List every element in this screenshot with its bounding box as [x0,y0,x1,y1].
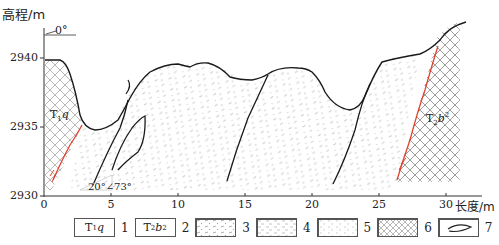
legend-swatch-t1q: T1q [74,218,115,237]
legend-number: 5 [364,221,372,235]
xtick-label-20: 20 [305,198,319,211]
legend: T1q 1 T2b2 2 3 4 5 6 7 [74,218,498,237]
legend-number: 2 [182,221,190,235]
legend-swatch-lens-outline [438,218,479,237]
ytick-label-2930: 2930 [10,189,38,202]
legend-label-tail: q [97,221,104,234]
legend-item-1: T1q 1 [74,218,129,237]
legend-item-3: 3 [195,218,250,237]
xtick-label-15: 15 [238,198,252,211]
legend-item-4: 4 [256,218,311,237]
legend-item-2: T2b2 2 [135,218,190,237]
unit-label-t2b2: T2b2 [426,111,449,127]
boundary-line-2 [126,80,130,94]
legend-item-5: 5 [317,218,372,237]
legend-item-7: 7 [438,218,493,237]
y-axis-label: 高程/m [2,4,45,23]
xtick-label-0: 0 [41,198,48,211]
xtick-label-10: 10 [171,198,185,211]
legend-swatch-dots-dashes [195,218,236,237]
ytick-label-2935: 2935 [10,120,38,133]
xtick-label-5: 5 [108,198,115,211]
unit-tail: q [62,108,69,121]
xtick-label-30: 30 [439,198,453,211]
legend-label-main: T [143,221,150,234]
unit-label-t1q: T1q [50,108,69,123]
ytick-label-2940: 2940 [10,51,38,64]
unit-tail: b [438,112,445,125]
legend-number: 4 [303,221,311,235]
legend-label-tail: b [155,221,162,234]
dip-reference-label: 0° [55,24,68,37]
legend-number: 6 [424,221,432,235]
x-axis-label: 长度/m [455,197,495,214]
legend-label-main: T [85,221,92,234]
attitude-label: 20°∠73° [88,181,132,192]
legend-number: 1 [121,221,129,235]
legend-swatch-t2b2: T2b2 [135,218,176,237]
legend-number: 7 [485,221,493,235]
legend-label-sup: 2 [162,224,166,232]
unit-sup: 2 [445,111,449,119]
legend-swatch-crosshatch [377,218,418,237]
legend-swatch-dashes-faint [317,218,358,237]
legend-swatch-dashes-light [256,218,297,237]
legend-item-6: 6 [377,218,432,237]
xtick-label-25: 25 [372,198,386,211]
legend-number: 3 [242,221,250,235]
